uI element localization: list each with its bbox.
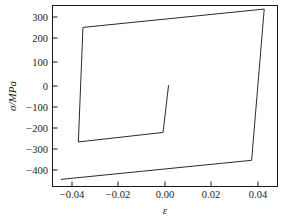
y-tick-label-100: 100 <box>32 57 48 68</box>
y-tick-label-neg400: −400 <box>26 165 48 176</box>
hysteresis-loop-curve <box>61 9 264 179</box>
x-tick-label-neg004: −0.04 <box>60 189 85 200</box>
x-tick-label-004: 0.04 <box>249 189 268 200</box>
x-axis-label: ε <box>163 204 168 216</box>
y-tick-label-0: 0 <box>43 81 48 92</box>
y-tick-label-neg300: −300 <box>26 144 48 155</box>
y-tick-label-neg100: −100 <box>26 102 48 113</box>
x-tick-label-neg002: −0.02 <box>106 189 130 200</box>
chart-canvas: 300 200 100 0 −100 −200 −300 −400 −0.04 … <box>0 0 288 221</box>
y-tick-label-200: 200 <box>32 33 48 44</box>
stress-strain-hysteresis-figure: 300 200 100 0 −100 −200 −300 −400 −0.04 … <box>0 0 288 221</box>
x-tick-label-002: 0.02 <box>202 189 220 200</box>
x-axis-ticks <box>72 182 258 187</box>
y-tick-label-neg200: −200 <box>26 123 48 134</box>
x-tick-label-000: 0.00 <box>156 189 174 200</box>
y-axis-ticks <box>53 17 58 170</box>
y-tick-label-300: 300 <box>32 12 48 23</box>
y-axis-label: σ/MPa <box>6 81 18 111</box>
plot-frame <box>53 6 278 187</box>
